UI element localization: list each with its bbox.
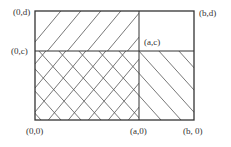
label-a-0: (a,0) <box>130 126 147 136</box>
label-0-c: (0,c) <box>11 46 28 56</box>
label-0-d: (0,d) <box>13 7 30 17</box>
label-b-d: (b,d) <box>199 8 216 18</box>
label-a-c: (a,c) <box>144 37 160 47</box>
cross-hatch-lower-left <box>0 30 190 130</box>
label-b-0: (b, 0) <box>183 126 203 136</box>
outer-rectangle <box>35 11 194 120</box>
label-0-0: (0,0) <box>26 126 43 136</box>
diagram-canvas <box>0 0 231 147</box>
